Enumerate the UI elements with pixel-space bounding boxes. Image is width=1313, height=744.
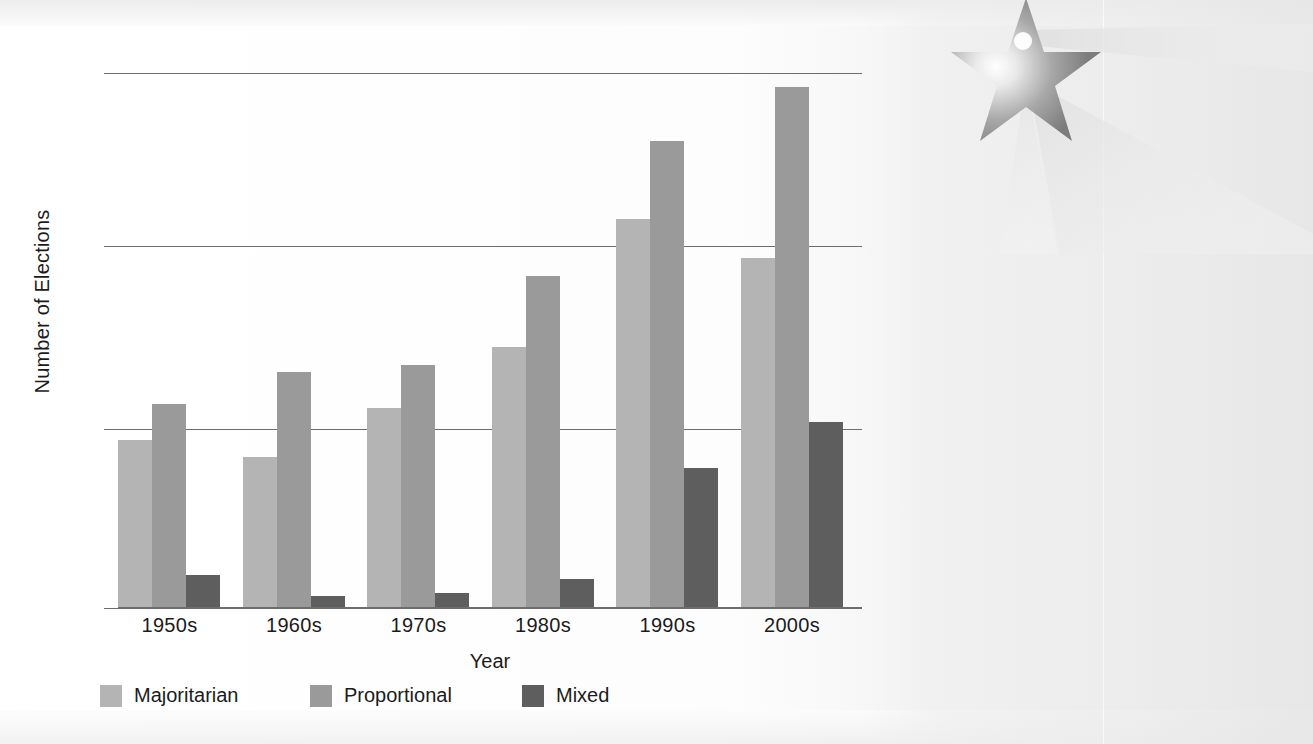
bar-1970s-mixed [435, 593, 469, 607]
gridline-100 [118, 246, 862, 247]
x-axis-baseline [118, 607, 862, 609]
bar-1960s-majoritarian [243, 457, 277, 607]
y-axis-label: Number of Elections [31, 182, 54, 422]
x-tick-label-1990s: 1990s [605, 614, 730, 637]
bar-2000s-mixed [809, 422, 843, 607]
bar-1980s-proportional [526, 276, 560, 607]
legend-item-mixed[interactable]: Mixed [522, 684, 609, 707]
bar-2000s-proportional [775, 87, 809, 607]
bar-1970s-proportional [401, 365, 435, 607]
bar-1950s-majoritarian [118, 440, 152, 607]
bar-1960s-proportional [277, 372, 311, 607]
bar-1950s-mixed [186, 575, 220, 607]
y-tick-mark-100 [104, 246, 118, 247]
page-gutter-shading [862, 0, 1313, 744]
bar-1980s-mixed [560, 579, 594, 607]
legend-label-proportional: Proportional [344, 684, 452, 707]
bar-1980s-majoritarian [492, 347, 526, 607]
y-tick-mark-50 [104, 429, 118, 430]
x-tick-label-1970s: 1970s [356, 614, 481, 637]
legend-item-proportional[interactable]: Proportional [310, 684, 522, 707]
x-tick-label-2000s: 2000s [730, 614, 855, 637]
legend-item-majoritarian[interactable]: Majoritarian [100, 684, 310, 707]
y-tick-mark-0 [104, 608, 118, 609]
legend-label-majoritarian: Majoritarian [134, 684, 238, 707]
bar-1990s-mixed [684, 468, 718, 607]
bar-1960s-mixed [311, 596, 345, 607]
gutter-fold-line [1103, 0, 1104, 744]
chart-legend: Majoritarian Proportional Mixed [100, 684, 609, 707]
x-tick-label-1950s: 1950s [107, 614, 232, 637]
legend-swatch-mixed [522, 685, 544, 707]
gridline-150 [118, 73, 862, 74]
x-tick-label-1980s: 1980s [481, 614, 606, 637]
bar-2000s-majoritarian [741, 258, 775, 607]
x-axis-label: Year [118, 650, 862, 673]
bar-chart: Number of Elections 150 100 50 0 1950s19… [0, 0, 900, 744]
legend-swatch-proportional [310, 685, 332, 707]
chart-page: Number of Elections 150 100 50 0 1950s19… [0, 0, 1313, 744]
bar-1990s-proportional [650, 141, 684, 607]
legend-label-mixed: Mixed [556, 684, 609, 707]
legend-swatch-majoritarian [100, 685, 122, 707]
bar-1970s-majoritarian [367, 408, 401, 607]
x-tick-label-1960s: 1960s [232, 614, 357, 637]
y-tick-mark-150 [104, 73, 118, 74]
bar-1950s-proportional [152, 404, 186, 607]
bar-1990s-majoritarian [616, 219, 650, 607]
